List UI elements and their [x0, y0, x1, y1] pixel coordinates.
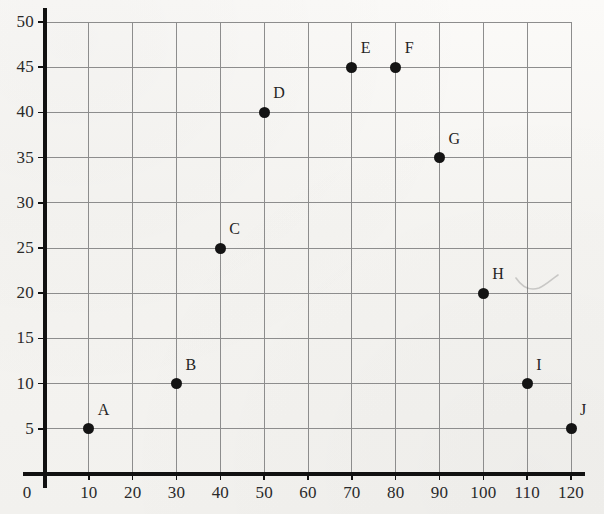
data-point-label-d: D: [273, 84, 285, 102]
x-axis-tick-label: 30: [168, 483, 185, 503]
plot-canvas: [0, 0, 604, 514]
y-axis-tick-label: 25: [0, 238, 34, 258]
x-axis-tick-label: 70: [343, 483, 360, 503]
data-point-e[interactable]: [346, 62, 357, 73]
data-point-label-g: G: [449, 130, 461, 148]
data-point-label-h: H: [492, 265, 504, 283]
x-axis-tick-label: 90: [431, 483, 448, 503]
x-axis-tick-label: 80: [387, 483, 404, 503]
data-point-f[interactable]: [390, 62, 401, 73]
y-axis-tick-label: 5: [0, 419, 34, 439]
data-point-label-c: C: [229, 220, 240, 238]
data-point-label-b: B: [186, 356, 197, 374]
data-point-d[interactable]: [259, 107, 270, 118]
x-axis-tick-label: 120: [558, 483, 584, 503]
data-point-j[interactable]: [566, 423, 577, 434]
scatter-plot-figure: 5101520253035404550 01020304050607080901…: [0, 0, 604, 514]
data-point-label-j: J: [580, 401, 586, 419]
y-axis-tick-label: 10: [0, 374, 34, 394]
x-axis-tick-label: 100: [470, 483, 496, 503]
data-point-i[interactable]: [522, 378, 533, 389]
x-axis-tick-label: 60: [299, 483, 316, 503]
axis-tick-marks: [38, 22, 571, 480]
data-point-h[interactable]: [478, 288, 489, 299]
x-axis-tick-label: 0: [23, 483, 32, 503]
y-axis-tick-label: 15: [0, 328, 34, 348]
x-axis-tick-label: 10: [80, 483, 97, 503]
x-axis-tick-label: 40: [212, 483, 229, 503]
data-point-label-e: E: [361, 39, 371, 57]
gridlines: [45, 22, 571, 474]
y-axis-tick-label: 30: [0, 193, 34, 213]
x-axis-tick-label: 50: [255, 483, 272, 503]
data-point-c[interactable]: [215, 243, 226, 254]
x-axis-tick-label: 110: [514, 483, 539, 503]
data-point-label-f: F: [405, 39, 414, 57]
data-point-label-i: I: [536, 356, 541, 374]
y-axis-tick-label: 45: [0, 57, 34, 77]
y-axis-tick-label: 40: [0, 102, 34, 122]
data-point-label-a: A: [98, 401, 110, 419]
y-axis-tick-label: 20: [0, 283, 34, 303]
y-axis-tick-label: 50: [0, 12, 34, 32]
x-axis-tick-label: 20: [124, 483, 141, 503]
y-axis-tick-label: 35: [0, 148, 34, 168]
